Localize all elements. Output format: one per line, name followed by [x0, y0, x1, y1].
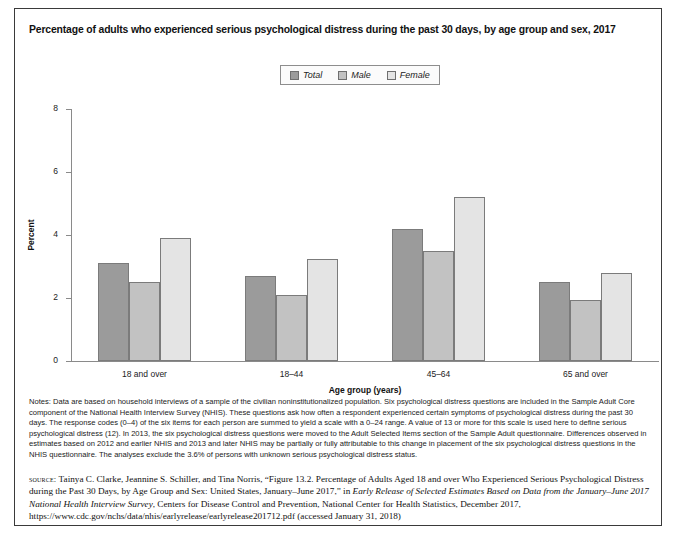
bar[interactable] [245, 276, 276, 361]
bar[interactable] [454, 197, 485, 361]
y-axis-tick: 4 [66, 235, 71, 236]
legend-swatch-icon [387, 71, 396, 80]
legend-swatch-icon [338, 71, 347, 80]
figure-source: source: Tainya C. Clarke, Jeannine S. Sc… [29, 473, 651, 523]
legend-item: Male [338, 70, 371, 80]
chart-legend: TotalMaleFemale [280, 65, 440, 85]
x-axis-group-label: 65 and over [539, 369, 632, 379]
bar[interactable] [98, 263, 129, 361]
bar[interactable] [160, 238, 191, 361]
x-axis-group-label: 18 and over [98, 369, 191, 379]
legend-item-label: Male [351, 70, 371, 80]
bar[interactable] [423, 251, 454, 361]
y-axis-tick-label: 4 [53, 229, 58, 239]
bar[interactable] [392, 229, 423, 361]
legend-item-label: Total [303, 70, 322, 80]
x-axis-title: Age group (years) [71, 385, 659, 395]
y-axis-tick-label: 6 [53, 166, 58, 176]
bar[interactable] [129, 282, 160, 361]
legend-item: Total [290, 70, 322, 80]
bar[interactable] [539, 282, 570, 361]
y-axis-tick-label: 0 [53, 355, 58, 365]
source-label: source: [29, 474, 56, 484]
y-axis-title: Percent [26, 219, 36, 250]
bar-group: 45–64 [392, 109, 485, 361]
bar-group: 18–44 [245, 109, 338, 361]
bar[interactable] [307, 259, 338, 361]
y-axis-tick: 8 [66, 109, 71, 110]
x-axis-line [71, 361, 659, 362]
page-title: Percentage of adults who experienced ser… [29, 23, 647, 36]
bar[interactable] [570, 300, 601, 361]
x-axis-group-label: 45–64 [392, 369, 485, 379]
bar[interactable] [276, 295, 307, 361]
figure-notes: Notes: Data are based on household inter… [29, 397, 651, 461]
y-axis-tick: 6 [66, 172, 71, 173]
chart-plot-area: Percent 02468 18 and over18–4445–6465 an… [71, 109, 659, 361]
bar-group: 18 and over [98, 109, 191, 361]
legend-item-label: Female [400, 70, 430, 80]
y-axis-tick-label: 2 [53, 292, 58, 302]
y-axis-line [71, 109, 72, 361]
legend-swatch-icon [290, 71, 299, 80]
y-axis-tick: 0 [66, 361, 71, 362]
figure-frame: Percentage of adults who experienced ser… [14, 8, 662, 526]
x-axis-group-label: 18–44 [245, 369, 338, 379]
y-axis-tick-label: 8 [53, 103, 58, 113]
y-axis-tick: 2 [66, 298, 71, 299]
legend-item: Female [387, 70, 430, 80]
bar-group: 65 and over [539, 109, 632, 361]
bar[interactable] [601, 273, 632, 361]
